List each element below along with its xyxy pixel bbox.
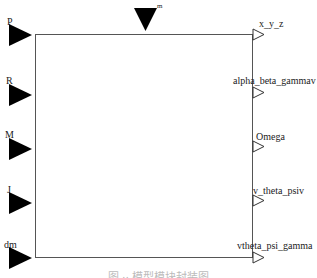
top-input-label: m xyxy=(157,1,162,11)
input-port-r-icon xyxy=(9,84,33,106)
output-port-vtheta-psi-gamma-icon xyxy=(252,251,266,264)
subsystem-block[interactable] xyxy=(35,34,253,258)
input-port-j-icon xyxy=(9,192,33,214)
input-port-p-icon xyxy=(9,24,33,46)
top-input-port-icon xyxy=(134,8,158,32)
output-label-vtheta-psi-gamma: vtheta_psi_gamma xyxy=(237,241,313,251)
output-port-omega-icon xyxy=(252,140,266,153)
output-port-v-theta-psiv-icon xyxy=(252,194,266,207)
input-port-m-icon xyxy=(9,138,33,160)
output-label-alpha-beta-gammav: alpha_beta_gammav xyxy=(233,76,316,86)
output-port-x-y-z-icon xyxy=(252,28,266,41)
output-port-alpha-beta-gammav-icon xyxy=(252,86,266,99)
input-port-dm-icon xyxy=(9,247,33,269)
figure-caption: 图 ·· 模型模块封装图 xyxy=(0,270,317,278)
